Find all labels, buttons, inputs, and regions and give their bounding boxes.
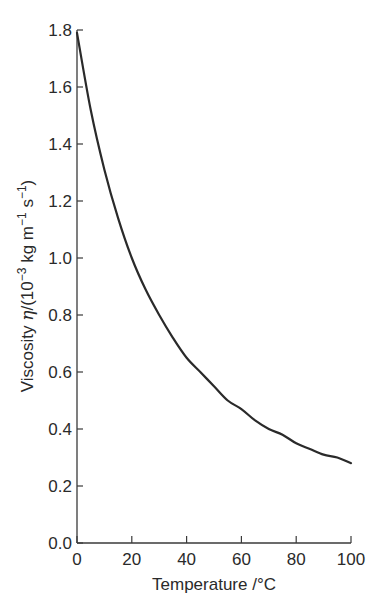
y-axis-title-exp2: −1 — [15, 212, 29, 226]
x-tick-label: 40 — [177, 550, 196, 569]
x-ticks: 020406080100 — [72, 536, 365, 569]
x-tick-label: 80 — [287, 550, 306, 569]
y-tick-label: 0.2 — [48, 477, 72, 496]
y-axis-title-exp1: −3 — [15, 267, 29, 281]
y-tick-label: 1.2 — [48, 192, 72, 211]
x-tick-label: 100 — [337, 550, 365, 569]
y-ticks: 0.00.20.40.60.81.01.21.41.61.8 — [48, 21, 83, 553]
x-tick-label: 20 — [122, 550, 141, 569]
viscosity-curve — [77, 33, 351, 463]
y-tick-label: 1.4 — [48, 135, 72, 154]
y-tick-label: 1.6 — [48, 78, 72, 97]
x-tick-label: 60 — [232, 550, 251, 569]
y-tick-label: 0.0 — [48, 534, 72, 553]
y-axis-title-open: /(10 — [18, 281, 37, 310]
y-tick-label: 1.8 — [48, 21, 72, 40]
y-tick-label: 0.4 — [48, 420, 72, 439]
y-tick-label: 1.0 — [48, 249, 72, 268]
x-tick-label: 0 — [72, 550, 81, 569]
y-axis-title-mid2: s — [18, 199, 37, 212]
y-axis-title: Viscosity η/(10−3 kg m−1 s−1) — [15, 180, 37, 393]
y-tick-label: 0.6 — [48, 363, 72, 382]
y-axis-title-prefix: Viscosity — [18, 321, 37, 393]
y-axis-title-exp3: −1 — [15, 185, 29, 199]
viscosity-temperature-chart: 0.00.20.40.60.81.01.21.41.61.8 020406080… — [0, 0, 373, 602]
y-tick-label: 0.8 — [48, 306, 72, 325]
x-axis-title: Temperature /°C — [152, 575, 276, 594]
axes — [77, 30, 351, 543]
y-axis-title-close: ) — [18, 180, 37, 186]
y-axis-title-mid: kg m — [18, 226, 37, 268]
